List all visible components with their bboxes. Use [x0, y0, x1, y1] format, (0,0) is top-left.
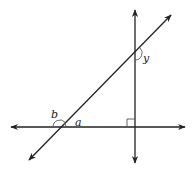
- right-angle-marker: [127, 119, 135, 127]
- geometry-diagram: b a y: [0, 0, 195, 171]
- diagram-svg: b a y: [0, 0, 195, 171]
- diagonal-transversal-line: [29, 15, 171, 160]
- angle-y-label: y: [142, 52, 150, 65]
- angle-b-label: b: [51, 108, 58, 121]
- angle-a-label: a: [75, 116, 82, 129]
